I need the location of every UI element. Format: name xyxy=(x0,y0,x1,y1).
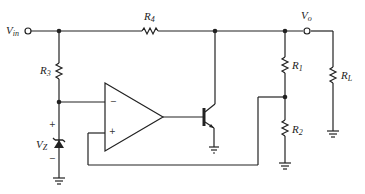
inverting-sign: − xyxy=(110,98,117,106)
resistor-r3 xyxy=(56,63,62,79)
r1-label: R1 xyxy=(292,60,303,73)
resistor-r4 xyxy=(142,28,158,34)
vo-terminal xyxy=(304,28,310,34)
rl-label: RL xyxy=(341,70,352,83)
vin-label: Vin xyxy=(6,25,19,38)
vo-label: Vo xyxy=(301,10,312,23)
resistor-rl xyxy=(330,67,336,83)
r2-label: R2 xyxy=(292,124,303,137)
opamp-triangle xyxy=(105,83,163,151)
r3-label: R3 xyxy=(40,65,51,78)
noninverting-sign: + xyxy=(109,128,116,136)
zener-minus-sign: − xyxy=(49,155,56,163)
vin-terminal xyxy=(25,28,31,34)
resistor-r2 xyxy=(282,120,288,136)
circuit-schematic xyxy=(0,0,365,194)
r4-label: R4 xyxy=(144,11,155,24)
vz-label: VZ xyxy=(36,139,47,152)
resistor-r1 xyxy=(282,57,288,73)
zener-plus-sign: + xyxy=(49,121,56,129)
